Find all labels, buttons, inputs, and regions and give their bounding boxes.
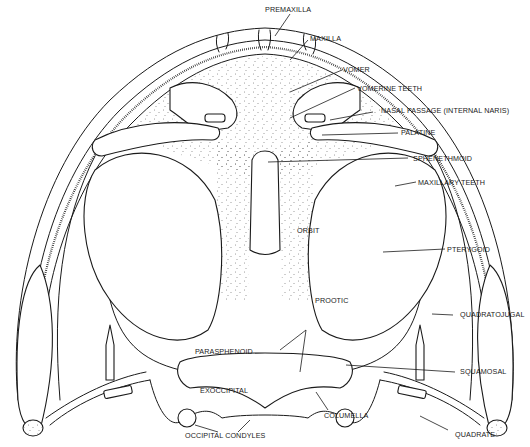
label-vomer: VOMER	[343, 65, 370, 74]
label-orbit: ORBIT	[297, 226, 319, 235]
label-vomerine-teeth: VOMERINE TEETH	[357, 84, 422, 93]
label-prootic: PROOTIC	[315, 296, 348, 305]
label-quadratojugal: QUADRATOJUGAL	[460, 310, 525, 319]
label-maxillary-teeth: MAXILLARY TEETH	[418, 178, 485, 187]
label-pterygoid: PTERYGOID	[447, 245, 490, 254]
label-exoccipital: EXOCCIPITAL	[200, 386, 248, 395]
frog-skull-diagram: PREMAXILLA MAXILLA VOMER VOMERINE TEETH …	[0, 0, 530, 447]
label-columella: COLUMELLA	[324, 411, 368, 420]
sphenethmoid-bone	[215, 140, 315, 300]
skull-drawing	[0, 0, 530, 447]
label-nasal-passage: NASAL PASSAGE (INTERNAL NARIS)	[381, 106, 509, 115]
label-palatine: PALATINE	[401, 128, 435, 137]
label-sphenethmoid: SPHENETHMOID	[413, 154, 472, 163]
label-quadrate: QUADRATE	[455, 430, 495, 439]
label-parasphenoid: PARASPHENOID	[195, 347, 253, 356]
label-maxilla: MAXILLA	[310, 34, 341, 43]
label-premaxilla: PREMAXILLA	[265, 5, 311, 14]
label-squamosal: SQUAMOSAL	[460, 367, 506, 376]
label-occipital-condyles: OCCIPITAL CONDYLES	[185, 431, 265, 440]
premaxilla-sutures	[216, 30, 315, 54]
